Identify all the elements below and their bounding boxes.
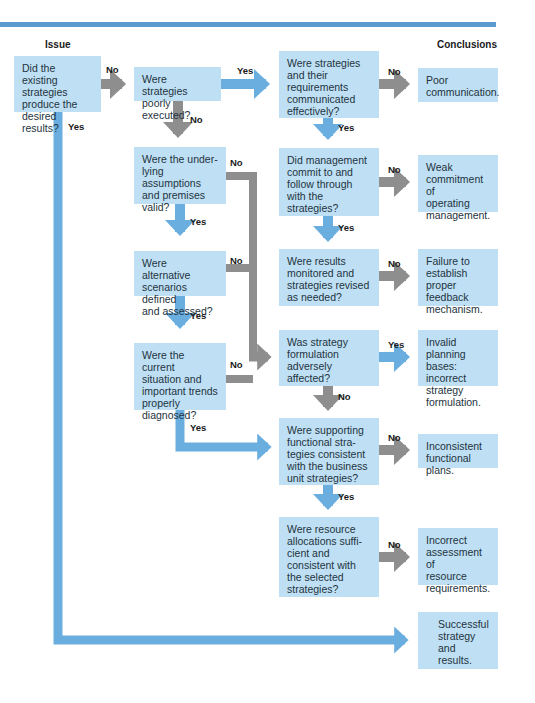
question-text: Did management commit to and follow thro… [287, 154, 371, 214]
conclusion-text: Poor communication. [426, 74, 490, 98]
question-text: Were strategies and their requirements c… [287, 57, 371, 117]
edge-label-q3-yes: Yes [338, 122, 354, 133]
question-box-q6: Were the under- lying assumptions and pr… [134, 147, 226, 204]
question-text: Were the under- lying assumptions and pr… [142, 153, 218, 213]
edge-label-q8-yes: Yes [190, 422, 206, 433]
conclusion-text: Weak commitment of operating management. [426, 161, 490, 221]
question-box-q11: Were resource allocations suffi- cient a… [279, 517, 379, 597]
conclusion-box-c3: Failure to establish proper feedback mec… [418, 249, 498, 306]
question-box-q2: Were strategies poorly executed? [134, 67, 221, 101]
edge-label-q9-no: No [338, 391, 351, 402]
conclusion-box-c2: Weak commitment of operating management. [418, 155, 498, 212]
question-box-q10: Were supporting functional stra- tegies … [279, 418, 379, 485]
conclusion-box-c5: Inconsistent functional plans. [418, 434, 498, 468]
question-box-q9: Was strategy formulation adversely affec… [279, 330, 379, 386]
edge-label-q5-no: No [388, 258, 401, 269]
edge-label-q8-no: No [230, 359, 243, 370]
conclusion-text: Successful strategy and results. [438, 618, 490, 666]
question-box-q5: Were results monitored and strategies re… [279, 249, 379, 306]
edge-label-q1-no: No [106, 64, 119, 75]
conclusion-box-c1: Poor communication. [418, 68, 498, 102]
edge-label-q2-yes: Yes [237, 65, 253, 76]
conclusion-text: Invalid planning bases: incorrect strate… [426, 336, 490, 408]
edge-label-q4-no: No [388, 164, 401, 175]
edge-label-q10-no: No [388, 432, 401, 443]
question-box-q3: Were strategies and their requirements c… [279, 51, 379, 118]
edge-label-q11-no: No [388, 539, 401, 550]
edge-label-q6-no: No [230, 157, 243, 168]
question-text: Were the current situation and important… [142, 349, 218, 421]
question-text: Was strategy formulation adversely affec… [287, 336, 371, 384]
edge-label-q7-yes: Yes [190, 310, 206, 321]
question-text: Were alternative scenarios defined and a… [142, 257, 218, 317]
conclusion-text: Failure to establish proper feedback mec… [426, 255, 490, 315]
question-text: Were resource allocations suffi- cient a… [287, 523, 371, 595]
conclusion-text: Incorrect assessment of resource require… [426, 534, 490, 594]
edge-label-q9-yes: Yes [388, 339, 404, 350]
edge-label-q1-yes: Yes [68, 121, 84, 132]
conclusion-text: Inconsistent functional plans. [426, 440, 490, 476]
conclusion-box-c4: Invalid planning bases: incorrect strate… [418, 330, 498, 386]
question-box-q8: Were the current situation and important… [134, 343, 226, 410]
edge-label-q2-no: No [190, 114, 203, 125]
question-box-q1: Did the existing strategies produce the … [14, 56, 101, 112]
edge-label-q7-no: No [230, 255, 243, 266]
question-box-q4: Did management commit to and follow thro… [279, 148, 379, 216]
conclusion-box-c7: Successful strategy and results. [418, 612, 498, 669]
edge-label-q3-no: No [388, 66, 401, 77]
edge-label-q10-yes: Yes [338, 491, 354, 502]
conclusion-box-c6: Incorrect assessment of resource require… [418, 528, 498, 585]
edge-label-q4-yes: Yes [338, 222, 354, 233]
question-box-q7: Were alternative scenarios defined and a… [134, 251, 226, 296]
question-text: Were results monitored and strategies re… [287, 255, 371, 303]
edge-label-q6-yes: Yes [190, 216, 206, 227]
question-text: Were supporting functional stra- tegies … [287, 424, 371, 484]
